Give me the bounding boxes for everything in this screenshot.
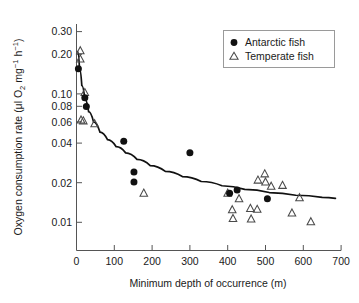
x-tick-label: 200 <box>143 255 161 267</box>
data-point-antarctic-fish <box>130 179 137 186</box>
y-axis-title-sup-2: −1 <box>11 42 20 51</box>
data-point-temperate-fish <box>77 47 85 54</box>
data-point-temperate-fish <box>307 218 315 225</box>
data-point-temperate-fish <box>288 209 296 216</box>
y-tick-0.10: 0.10 <box>52 88 82 100</box>
x-tick-label: 100 <box>106 255 124 267</box>
data-point-antarctic-fish <box>186 149 193 156</box>
x-tick-400: 400 <box>219 245 237 267</box>
data-point-antarctic-fish <box>226 190 233 197</box>
y-tick-label: 0.06 <box>52 116 73 128</box>
x-tick-label: 500 <box>257 255 275 267</box>
y-tick-label: 0.20 <box>52 48 73 60</box>
y-tick-label: 0.30 <box>52 25 73 37</box>
data-point-temperate-fish <box>253 205 261 212</box>
figure-container: 0.30 0.20 0.10 0.08 0.06 0.04 <box>0 0 359 303</box>
x-tick-200: 200 <box>143 245 161 267</box>
x-tick-label: 700 <box>332 255 350 267</box>
data-point-temperate-fish <box>140 189 148 196</box>
y-axis-title-tail: ) <box>12 39 24 43</box>
y-axis-title-lead: Oxygen consumption rate (μl O <box>12 90 24 236</box>
data-point-temperate-fish <box>247 204 255 211</box>
x-tick-100: 100 <box>106 245 124 267</box>
legend: Antarctic fish Temperate fish <box>224 31 335 68</box>
x-axis-ticks: 0 100 200 300 400 500 <box>74 245 350 267</box>
legend-label-antarctic-fish: Antarctic fish <box>245 36 305 48</box>
data-point-temperate-fish <box>279 181 287 188</box>
y-axis-title: Oxygen consumption rate (μl O2 mg−1 h−1) <box>11 39 26 236</box>
x-tick-label: 300 <box>181 255 199 267</box>
x-axis-title: Minimum depth of occurrence (m) <box>130 277 287 289</box>
data-point-temperate-fish <box>91 120 99 127</box>
data-point-temperate-fish <box>229 214 237 221</box>
x-tick-600: 600 <box>295 245 313 267</box>
oxygen-consumption-scatter-plot: 0.30 0.20 0.10 0.08 0.06 0.04 <box>0 0 359 303</box>
legend-marker-filled-circle-icon <box>231 39 238 46</box>
y-tick-0.04: 0.04 <box>52 137 82 149</box>
x-tick-500: 500 <box>257 245 275 267</box>
x-tick-0: 0 <box>74 245 80 267</box>
y-tick-0.30: 0.30 <box>52 25 82 37</box>
x-tick-700: 700 <box>332 245 350 267</box>
y-tick-label: 0.08 <box>52 100 73 112</box>
y-tick-label: 0.04 <box>52 137 73 149</box>
y-axis-title-mid2: h <box>12 51 24 60</box>
data-point-temperate-fish <box>262 178 270 185</box>
data-point-temperate-fish <box>247 215 255 222</box>
x-tick-label: 0 <box>74 255 80 267</box>
y-tick-0.08: 0.08 <box>52 100 82 112</box>
x-tick-label: 600 <box>295 255 313 267</box>
y-tick-label: 0.01 <box>52 216 73 228</box>
data-point-temperate-fish <box>261 170 269 177</box>
y-axis-ticks: 0.30 0.20 0.10 0.08 0.06 0.04 <box>52 25 82 228</box>
data-point-temperate-fish <box>235 195 243 202</box>
data-point-temperate-fish <box>228 206 236 213</box>
y-axis-title-sup-1: −1 <box>11 59 20 68</box>
data-point-antarctic-fish <box>83 103 90 110</box>
y-tick-0.01: 0.01 <box>52 216 82 228</box>
data-point-antarctic-fish <box>75 65 82 72</box>
data-point-antarctic-fish <box>130 169 137 176</box>
fitted-trend-curve <box>78 52 336 199</box>
data-point-antarctic-fish <box>81 94 88 101</box>
y-tick-label: 0.02 <box>52 177 73 189</box>
y-tick-0.02: 0.02 <box>52 177 82 189</box>
data-point-antarctic-fish <box>120 138 127 145</box>
x-tick-300: 300 <box>181 245 199 267</box>
series-temperate-fish-markers <box>77 47 315 225</box>
data-point-antarctic-fish <box>264 195 271 202</box>
x-tick-label: 400 <box>219 255 237 267</box>
legend-label-temperate-fish: Temperate fish <box>245 50 314 62</box>
y-tick-label: 0.10 <box>52 88 73 100</box>
y-axis-title-mid: mg <box>12 68 24 86</box>
data-point-antarctic-fish <box>234 186 241 193</box>
data-point-temperate-fish <box>77 55 85 62</box>
